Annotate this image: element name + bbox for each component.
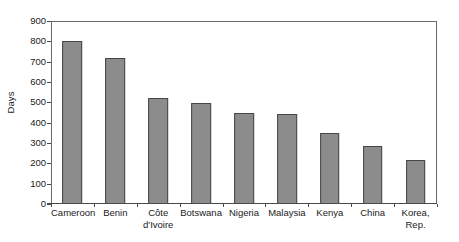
bar[interactable] xyxy=(105,58,125,204)
x-axis-tick-label-line: Malaysia xyxy=(268,207,306,218)
y-axis-tick-label: 900 xyxy=(18,16,46,26)
x-axis-tick-label-line: Kenya xyxy=(316,207,343,218)
bar[interactable] xyxy=(148,98,168,204)
y-axis-tick-label: 400 xyxy=(18,118,46,128)
bars-layer xyxy=(51,21,437,204)
y-axis-tick-label: 500 xyxy=(18,97,46,107)
bar-slot xyxy=(94,21,137,204)
y-axis-tick-labels: 0100200300400500600700800900 xyxy=(18,15,46,209)
y-axis-tick-label: 100 xyxy=(18,179,46,189)
bar[interactable] xyxy=(234,113,254,205)
x-axis-tick-label-line: China xyxy=(360,207,385,218)
x-axis-tick-label: Botswana xyxy=(180,207,223,219)
y-axis-tick-label: 600 xyxy=(18,77,46,87)
y-axis-tick-label: 0 xyxy=(18,199,46,209)
x-axis-tick-label: Benin xyxy=(94,207,137,219)
x-axis-tick-label: Korea, Rep. xyxy=(394,207,437,230)
bar-slot xyxy=(351,21,394,204)
bar[interactable] xyxy=(320,133,340,204)
x-axis-tick-label-line: Côte xyxy=(148,207,168,218)
y-axis-title: Days xyxy=(0,0,20,205)
x-axis-tick-label: Côted'Ivoire xyxy=(137,207,180,230)
x-axis-tick-label-line: d'Ivoire xyxy=(137,219,180,231)
x-axis-labels: CameroonBeninCôted'IvoireBotswanaNigeria… xyxy=(51,207,437,241)
x-axis-tick-label: Cameroon xyxy=(51,207,94,219)
x-axis-tick-label: Malaysia xyxy=(265,207,308,219)
x-axis-tick-label: Nigeria xyxy=(223,207,266,219)
x-axis-tick-label-line: Nigeria xyxy=(229,207,259,218)
bar-slot xyxy=(394,21,437,204)
bar-slot xyxy=(51,21,94,204)
bar[interactable] xyxy=(406,160,426,204)
y-axis-tick-label: 800 xyxy=(18,36,46,46)
x-axis-tick-label-line: Botswana xyxy=(180,207,222,218)
bar[interactable] xyxy=(63,41,83,204)
y-axis-tick-label: 300 xyxy=(18,138,46,148)
x-axis-tick-label: China xyxy=(351,207,394,219)
y-axis-title-text: Days xyxy=(5,91,16,113)
x-axis-tick-label: Kenya xyxy=(308,207,351,219)
bar[interactable] xyxy=(277,114,297,204)
bar[interactable] xyxy=(191,103,211,204)
bar-chart: Days 0100200300400500600700800900 Camero… xyxy=(0,0,459,242)
bar-slot xyxy=(308,21,351,204)
bar-slot xyxy=(137,21,180,204)
bar-slot xyxy=(223,21,266,204)
x-axis-tick-label-line: Korea, Rep. xyxy=(402,207,430,230)
x-axis-tick-label-line: Benin xyxy=(103,207,127,218)
x-axis-tick-mark xyxy=(437,204,438,207)
bar[interactable] xyxy=(363,146,383,204)
y-axis-tick-label: 700 xyxy=(18,57,46,67)
bar-slot xyxy=(180,21,223,204)
y-axis-tick-label: 200 xyxy=(18,158,46,168)
bar-slot xyxy=(265,21,308,204)
x-axis-tick-label-line: Cameroon xyxy=(51,207,95,218)
